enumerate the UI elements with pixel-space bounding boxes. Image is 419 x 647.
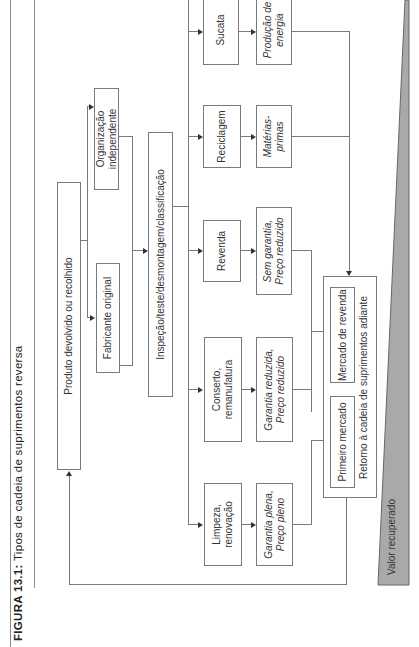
wedge-label: Valor recuperado bbox=[386, 499, 397, 575]
value-recovered-wedge bbox=[0, 0, 419, 647]
diagram-canvas: FIGURA 13.1: Tipos de cadeia de suprimen… bbox=[0, 0, 419, 647]
